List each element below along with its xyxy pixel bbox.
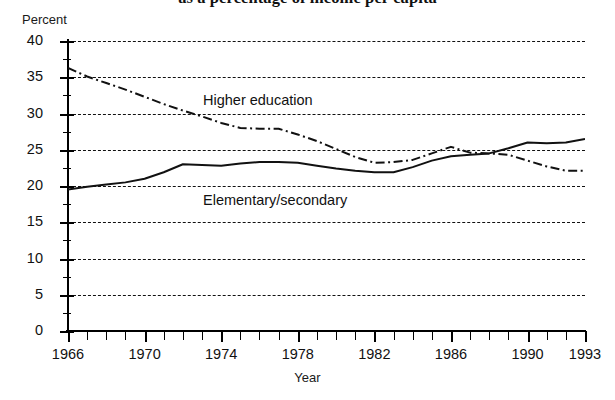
x-tick-major xyxy=(585,331,587,342)
series-line xyxy=(68,139,585,190)
chart-figure: as a percentage of income per capita Per… xyxy=(0,0,615,400)
x-tick-label: 1974 xyxy=(205,346,237,362)
x-tick-major xyxy=(528,331,530,342)
x-tick-minor xyxy=(279,331,280,340)
series-label-higher-education: Higher education xyxy=(203,92,313,108)
x-tick-minor xyxy=(413,331,414,340)
x-tick-minor xyxy=(106,331,107,340)
series-plot-area xyxy=(68,41,585,331)
x-tick-minor xyxy=(317,331,318,340)
x-axis-label: Year xyxy=(0,370,615,385)
x-tick-label: 1986 xyxy=(435,346,467,362)
x-tick-minor xyxy=(164,331,165,340)
y-tick-label: 30 xyxy=(9,105,43,121)
y-tick-label: 10 xyxy=(9,250,43,266)
x-tick-label: 1966 xyxy=(52,346,84,362)
y-tick-label: 15 xyxy=(9,213,43,229)
x-tick-major xyxy=(221,331,223,342)
x-tick-label: 1993 xyxy=(569,346,601,362)
x-tick-major xyxy=(68,331,70,342)
x-axis-ticks xyxy=(68,331,585,345)
y-tick-label: 20 xyxy=(9,177,43,193)
y-axis-label: Percent xyxy=(22,12,67,27)
y-axis-ticks: 0510152025303540 xyxy=(0,41,60,331)
chart-title: as a percentage of income per capita xyxy=(0,0,615,8)
x-tick-minor xyxy=(489,331,490,340)
x-tick-minor xyxy=(547,331,548,340)
x-tick-minor xyxy=(394,331,395,340)
x-tick-minor xyxy=(125,331,126,340)
x-tick-minor xyxy=(202,331,203,340)
x-tick-minor xyxy=(470,331,471,340)
y-tick-label: 40 xyxy=(9,32,43,48)
y-tick-label: 35 xyxy=(9,68,43,84)
y-tick-label: 5 xyxy=(9,286,43,302)
x-axis-tick-labels: 19661970197419781982198619901993 xyxy=(0,346,615,368)
x-tick-major xyxy=(298,331,300,342)
x-tick-label: 1990 xyxy=(511,346,543,362)
y-tick-label: 25 xyxy=(9,141,43,157)
x-tick-major xyxy=(145,331,147,342)
x-tick-label: 1978 xyxy=(282,346,314,362)
y-tick-label: 0 xyxy=(9,322,43,338)
x-tick-minor xyxy=(508,331,509,340)
x-tick-label: 1970 xyxy=(128,346,160,362)
x-tick-minor xyxy=(240,331,241,340)
x-tick-minor xyxy=(87,331,88,340)
x-tick-minor xyxy=(259,331,260,340)
x-tick-minor xyxy=(432,331,433,340)
x-tick-minor xyxy=(566,331,567,340)
x-tick-minor xyxy=(355,331,356,340)
series-label-elementary-secondary: Elementary/secondary xyxy=(203,192,347,208)
x-tick-minor xyxy=(336,331,337,340)
series-line xyxy=(68,68,585,171)
x-tick-major xyxy=(451,331,453,342)
x-tick-major xyxy=(374,331,376,342)
x-tick-label: 1982 xyxy=(358,346,390,362)
x-tick-minor xyxy=(183,331,184,340)
